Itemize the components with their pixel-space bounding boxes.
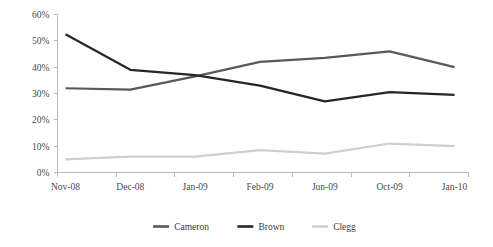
x-tick-label: Jan-10: [442, 182, 468, 192]
x-tick-label: Jun-09: [312, 182, 338, 192]
y-tick-label: 10%: [32, 142, 50, 152]
chart-legend: CameronBrownClegg: [153, 222, 356, 232]
line-chart: 0%10%20%30%40%50%60% Nov-08Dec-08Jan-09F…: [0, 0, 493, 247]
y-tick-label: 60%: [32, 10, 50, 20]
x-tick-label: Feb-09: [247, 182, 274, 192]
chart-canvas: 0%10%20%30%40%50%60% Nov-08Dec-08Jan-09F…: [0, 0, 493, 247]
y-tick-label: 50%: [32, 36, 50, 46]
y-tick-label: 30%: [32, 89, 50, 99]
y-tick-label: 20%: [32, 115, 50, 125]
series-line-clegg: [66, 144, 455, 160]
series-lines: [66, 34, 455, 159]
x-axis: Nov-08Dec-08Jan-09Feb-09Jun-09Oct-09Jan-…: [51, 173, 469, 192]
x-tick-label: Jan-09: [183, 182, 209, 192]
x-tick-label: Dec-08: [116, 182, 144, 192]
legend-label-clegg[interactable]: Clegg: [333, 222, 356, 232]
series-line-brown: [66, 34, 455, 101]
legend-label-brown[interactable]: Brown: [258, 222, 284, 232]
y-tick-label: 40%: [32, 63, 50, 73]
x-tick-label: Nov-08: [51, 182, 80, 192]
legend-label-cameron[interactable]: Cameron: [174, 222, 209, 232]
x-tick-label: Oct-09: [376, 182, 403, 192]
y-tick-label: 0%: [37, 168, 50, 178]
series-line-cameron: [66, 51, 455, 89]
y-axis: 0%10%20%30%40%50%60%: [32, 10, 57, 178]
